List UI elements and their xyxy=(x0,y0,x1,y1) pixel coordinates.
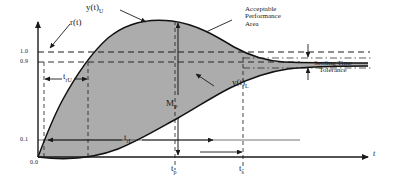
upper-response-subscript: U xyxy=(99,8,103,14)
rise-time-upper-label: trU xyxy=(63,72,72,83)
acceptable-performance-region xyxy=(38,20,368,158)
rise-time-upper-subscript: rU xyxy=(66,77,72,83)
r-of-t-leader xyxy=(50,24,70,48)
peak-overshoot-text: M xyxy=(166,98,174,108)
upper-response-leader xyxy=(120,10,146,22)
upper-response-label: y(t)U xyxy=(86,3,103,14)
figure-canvas xyxy=(0,0,400,183)
y-tick-label-1-0: 1.0 xyxy=(20,48,28,54)
settling-time-label: ts xyxy=(239,164,244,175)
peak-overshoot-label: MP xyxy=(166,99,177,110)
peak-overshoot-subscript: P xyxy=(174,104,177,110)
rise-time-lower-label: trL xyxy=(124,133,132,144)
rise-time-lower-subscript: rL xyxy=(127,138,133,144)
upper-response-text: y(t) xyxy=(86,2,99,12)
acceptable-area-line-3: Area xyxy=(245,21,281,28)
reference-label: r(t) xyxy=(70,18,82,27)
settling-tolerance-label: Settling Time Tolerance xyxy=(314,60,352,75)
lower-response-subscript: L xyxy=(245,83,249,89)
step-response-figure: 1.0 0.9 0.1 0.0 t r(t) y(t)U y(t)L Accep… xyxy=(0,0,400,183)
y-tick-label-0-0: 0.0 xyxy=(30,159,38,165)
y-tick-label-0-1: 0.1 xyxy=(20,136,28,142)
x-axis-label: t xyxy=(373,150,375,158)
acceptable-area-label: Acceptable Performance Area xyxy=(245,6,281,28)
lower-response-text: y(t) xyxy=(232,77,245,87)
settling-tolerance-line-2: Tolerance xyxy=(314,67,352,74)
acceptable-area-leader xyxy=(206,20,232,32)
settling-time-subscript: s xyxy=(242,169,244,175)
y-tick-label-0-9: 0.9 xyxy=(20,58,28,64)
peak-time-label: tp xyxy=(171,164,177,175)
peak-time-subscript: p xyxy=(174,169,177,175)
lower-response-label: y(t)L xyxy=(232,78,249,89)
